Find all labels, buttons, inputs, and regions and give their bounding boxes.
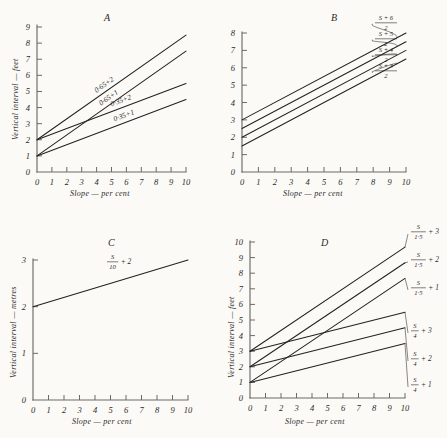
y-tick-label-0: 0 (26, 167, 31, 177)
x-tick-label-8: 8 (154, 177, 159, 187)
label-leader (405, 262, 408, 263)
y-tick-label-8: 8 (239, 268, 244, 278)
panel-b-x-axis-title: Slope — per cent (283, 189, 343, 198)
y-tick-label-3: 3 (238, 346, 243, 356)
y-tick-label-1: 1 (26, 151, 30, 161)
fraction-denominator: 2 (384, 72, 388, 79)
y-tick-label-2: 2 (26, 135, 31, 145)
y-tick-label-10: 10 (235, 237, 244, 247)
panel-a-letter: A (103, 12, 111, 23)
y-tick-label-6: 6 (239, 299, 244, 309)
fraction-numerator: S + 4 (379, 46, 394, 53)
x-tick-label-10: 10 (401, 403, 410, 413)
panel-b: B 012345678 012345678910 Slope — per cen… (223, 0, 447, 218)
x-tick-label-0: 0 (240, 177, 245, 187)
y-tick-label-0: 0 (22, 395, 27, 405)
x-tick-label-3: 3 (76, 405, 81, 415)
panel-b-letter: B (331, 12, 337, 23)
fraction-numerator: S (413, 322, 417, 329)
x-tick-label-2: 2 (65, 177, 70, 187)
x-tick-label-6: 6 (341, 403, 346, 413)
x-tick-label-4: 4 (305, 177, 310, 187)
fraction-denominator: 1·5 (414, 261, 423, 268)
fraction-suffix: + 2 (428, 255, 439, 264)
y-tick-label-0: 0 (239, 393, 244, 403)
data-line (250, 278, 405, 382)
x-tick-label-8: 8 (155, 405, 160, 415)
data-line (242, 59, 406, 146)
fraction-denominator: 1·5 (414, 233, 423, 240)
panel-c-y-axis-title: Vertical interval — metres (9, 286, 18, 378)
panel-d-x-axis-title: Slope — per cent (285, 417, 345, 426)
x-tick-label-6: 6 (338, 177, 343, 187)
fraction-suffix: + 1 (421, 380, 432, 389)
y-tick-label-4: 4 (26, 103, 31, 113)
fraction-numerator: S (417, 279, 421, 286)
y-tick-label-9: 9 (26, 22, 31, 32)
y-tick-label-5: 5 (231, 80, 235, 90)
label-leader (405, 343, 408, 387)
panel-a: A 0123456789 012345678910 Vertical inter… (0, 0, 223, 218)
x-tick-label-1: 1 (46, 405, 50, 415)
y-tick-label-3: 3 (21, 255, 26, 265)
panel-d: D 012345678910 012345678910 Vertical int… (223, 218, 447, 438)
panel-c: C 0123 012345678910 Vertical interval — … (0, 218, 223, 438)
data-line (250, 328, 405, 367)
y-tick-label-7: 7 (239, 284, 244, 294)
y-tick-label-7: 7 (231, 45, 236, 55)
x-tick-label-9: 9 (169, 177, 174, 187)
fraction-denominator: 1·5 (414, 289, 423, 296)
fraction-denominator: 10 (109, 263, 116, 270)
x-tick-label-0: 0 (35, 177, 40, 187)
fraction-suffix: + 2 (121, 257, 132, 266)
y-tick-label-4: 4 (239, 331, 244, 341)
fraction-numerator: S + 6 (379, 14, 394, 21)
fraction-numerator: S (111, 253, 115, 260)
x-tick-label-1: 1 (50, 177, 54, 187)
x-tick-label-7: 7 (139, 177, 144, 187)
x-tick-label-10: 10 (182, 177, 191, 187)
y-tick-label-8: 8 (26, 38, 31, 48)
x-tick-label-7: 7 (139, 405, 144, 415)
x-tick-label-5: 5 (109, 177, 113, 187)
y-tick-label-2: 2 (239, 362, 244, 372)
x-tick-label-9: 9 (387, 177, 392, 187)
panel-a-x-axis-title: Slope — per cent (70, 189, 130, 198)
x-tick-label-10: 10 (184, 405, 193, 415)
y-tick-label-5: 5 (26, 86, 30, 96)
label-leader (405, 278, 408, 290)
x-tick-label-4: 4 (93, 405, 98, 415)
data-line (250, 247, 405, 351)
y-tick-label-6: 6 (26, 70, 31, 80)
data-line (37, 35, 186, 140)
x-tick-label-1: 1 (256, 177, 260, 187)
y-tick-label-7: 7 (26, 54, 31, 64)
fraction-suffix: + 1 (428, 283, 439, 292)
panel-d-letter: D (320, 237, 329, 248)
x-tick-label-5: 5 (325, 403, 329, 413)
x-tick-label-4: 4 (94, 177, 99, 187)
panel-c-letter: C (108, 237, 115, 248)
data-line (250, 312, 405, 351)
y-tick-label-3: 3 (25, 119, 30, 129)
x-tick-label-7: 7 (355, 177, 360, 187)
x-tick-label-2: 2 (62, 405, 67, 415)
fraction-suffix: + 3 (428, 227, 439, 236)
x-tick-label-3: 3 (79, 177, 84, 187)
x-tick-label-5: 5 (322, 177, 326, 187)
x-tick-label-2: 2 (273, 177, 278, 187)
label-leader (405, 234, 408, 247)
y-tick-label-4: 4 (231, 98, 236, 108)
fraction-denominator: 4 (413, 386, 417, 393)
y-tick-label-8: 8 (231, 28, 236, 38)
x-tick-label-10: 10 (402, 177, 411, 187)
x-tick-label-7: 7 (356, 403, 361, 413)
x-tick-label-2: 2 (279, 403, 284, 413)
x-tick-label-3: 3 (293, 403, 298, 413)
y-tick-label-3: 3 (230, 115, 235, 125)
x-tick-label-8: 8 (372, 403, 377, 413)
x-tick-label-1: 1 (263, 403, 267, 413)
panel-c-x-axis-title: Slope — per cent (72, 417, 132, 426)
x-tick-label-3: 3 (288, 177, 293, 187)
data-line (250, 343, 405, 382)
